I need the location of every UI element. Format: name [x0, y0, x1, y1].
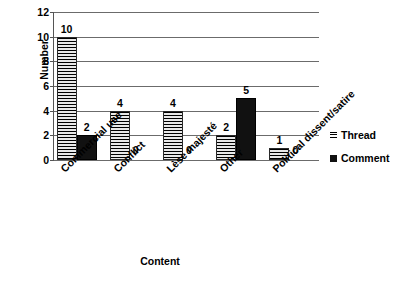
bar-chart-figure: Number 02468101210240402510 Content Thre…	[0, 0, 408, 281]
bar-value-label-thread: 1	[269, 134, 289, 146]
y-tick-label: 4	[19, 105, 49, 117]
y-tick-label: 0	[19, 154, 49, 166]
chart-legend: Thread Comment	[330, 126, 406, 172]
y-tick-mark	[50, 111, 54, 112]
bar-value-label-comment: 5	[236, 84, 256, 96]
y-tick-label: 6	[19, 80, 49, 92]
bar-group: 25	[216, 12, 256, 160]
y-tick-mark	[50, 61, 54, 62]
x-axis-title: Content	[0, 255, 320, 267]
y-tick-label: 10	[19, 31, 49, 43]
y-tick-label: 8	[19, 55, 49, 67]
legend-item-comment: Comment	[330, 149, 406, 167]
y-tick-mark	[50, 135, 54, 136]
bar-value-label-thread: 4	[110, 97, 130, 109]
hatched-square-icon	[330, 132, 337, 139]
bar-value-label-thread: 4	[163, 97, 183, 109]
y-tick-mark	[50, 160, 54, 161]
legend-label-comment: Comment	[341, 152, 389, 164]
y-tick-mark	[50, 37, 54, 38]
y-tick-mark	[50, 86, 54, 87]
y-tick-label: 12	[19, 6, 49, 18]
bar-group: 40	[110, 12, 150, 160]
y-tick-mark	[50, 12, 54, 13]
bar-value-label-thread: 10	[57, 23, 77, 35]
y-tick-label: 2	[19, 129, 49, 141]
legend-label-thread: Thread	[341, 129, 376, 141]
solid-square-icon	[330, 155, 337, 162]
bar-thread	[57, 37, 77, 160]
legend-item-thread: Thread	[330, 126, 406, 144]
